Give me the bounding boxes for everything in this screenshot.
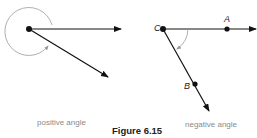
terminal-ray bbox=[29, 29, 108, 77]
point-label-C: C bbox=[154, 23, 161, 33]
figure-caption: Figure 6.15 bbox=[112, 125, 162, 136]
vertex-point bbox=[26, 26, 32, 32]
positive-angle-label: positive angle bbox=[37, 118, 86, 127]
negative-angle-label: negative angle bbox=[185, 120, 237, 129]
point-A bbox=[224, 26, 229, 31]
ray-CB bbox=[163, 29, 209, 111]
negative-angle-arc bbox=[177, 29, 188, 49]
point-label-A: A bbox=[224, 14, 230, 24]
negative-angle-figure bbox=[160, 26, 256, 111]
positive-angle-figure bbox=[5, 7, 121, 77]
point-label-B: B bbox=[184, 81, 190, 91]
point-B bbox=[192, 81, 197, 86]
